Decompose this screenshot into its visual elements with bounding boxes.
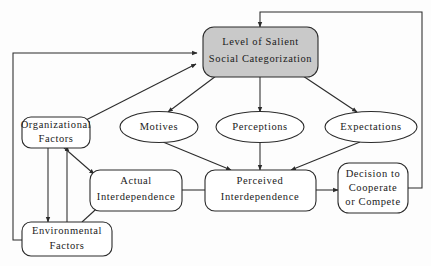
node-decision-to-cooperate-or-compete[interactable]: Decision to Cooperate or Compete bbox=[338, 163, 408, 213]
node-actual-interdependence[interactable]: Actual Interdependence bbox=[90, 170, 182, 211]
node-decision-line-1: Decision to bbox=[346, 168, 401, 179]
node-expectations-label: Expectations bbox=[340, 121, 401, 132]
node-organizational-factors[interactable]: Organizational Factors bbox=[21, 117, 92, 148]
edge-organizational-to-salient bbox=[86, 64, 196, 120]
node-decision-line-3: or Compete bbox=[345, 196, 400, 207]
node-perceptions-label: Perceptions bbox=[232, 121, 288, 132]
node-level-of-salient-social-categorization[interactable]: Level of Salient Social Categorization bbox=[203, 27, 318, 77]
node-environmental-factors[interactable]: Environmental Factors bbox=[22, 222, 112, 256]
node-salient-shape bbox=[203, 27, 318, 77]
node-salient-line-1: Level of Salient bbox=[222, 36, 299, 47]
node-perceived-line-1: Perceived bbox=[237, 175, 284, 186]
node-perceived-interdependence[interactable]: Perceived Interdependence bbox=[205, 170, 316, 211]
node-organizational-line-2: Factors bbox=[38, 133, 73, 144]
node-actual-line-1: Actual bbox=[120, 175, 152, 186]
node-environmental-line-2: Factors bbox=[49, 240, 84, 251]
node-decision-line-2: Cooperate bbox=[349, 182, 398, 193]
node-environmental-line-1: Environmental bbox=[32, 225, 102, 236]
node-actual-line-2: Interdependence bbox=[97, 191, 175, 202]
node-perceptions[interactable]: Perceptions bbox=[216, 112, 304, 143]
node-expectations[interactable]: Expectations bbox=[325, 112, 417, 143]
node-motives[interactable]: Motives bbox=[120, 112, 198, 143]
node-perceived-line-2: Interdependence bbox=[221, 191, 299, 202]
diagram-canvas: Level of Salient Social Categorization O… bbox=[0, 0, 431, 266]
flow-diagram: Level of Salient Social Categorization O… bbox=[0, 0, 431, 266]
edge-motives-to-perceived bbox=[163, 142, 231, 170]
node-organizational-line-1: Organizational bbox=[21, 119, 92, 130]
node-salient-line-2: Social Categorization bbox=[209, 53, 312, 64]
edge-salient-to-motives bbox=[168, 76, 216, 112]
node-motives-label: Motives bbox=[140, 121, 179, 132]
edge-salient-to-expectations bbox=[303, 76, 357, 112]
